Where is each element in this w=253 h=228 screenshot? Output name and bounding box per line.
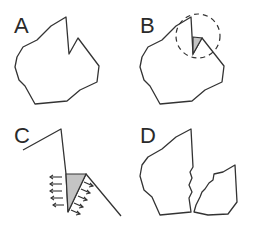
highlight-circle — [176, 14, 220, 58]
figure: A B C — [0, 0, 253, 228]
panel-label-b: B — [140, 13, 155, 38]
notch-wedge — [193, 37, 202, 54]
panel-c: C — [14, 123, 121, 216]
panel-label-a: A — [14, 13, 29, 38]
panel-a: A — [14, 13, 99, 104]
fragment-right — [194, 165, 237, 215]
force-arrows-left — [50, 175, 64, 207]
panel-d: D — [140, 123, 237, 215]
panel-label-d: D — [140, 123, 156, 148]
panel-b: B — [140, 13, 224, 104]
panel-label-c: C — [14, 123, 30, 148]
